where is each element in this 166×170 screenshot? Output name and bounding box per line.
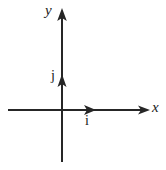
x-axis-label: x xyxy=(152,100,159,115)
y-axis-label: y xyxy=(45,3,52,18)
vector-j-label: j xyxy=(51,69,55,83)
coordinate-axes-figure: y x j i xyxy=(0,0,166,170)
axes-diagram-svg xyxy=(0,0,166,170)
vector-i-label: i xyxy=(85,114,89,128)
